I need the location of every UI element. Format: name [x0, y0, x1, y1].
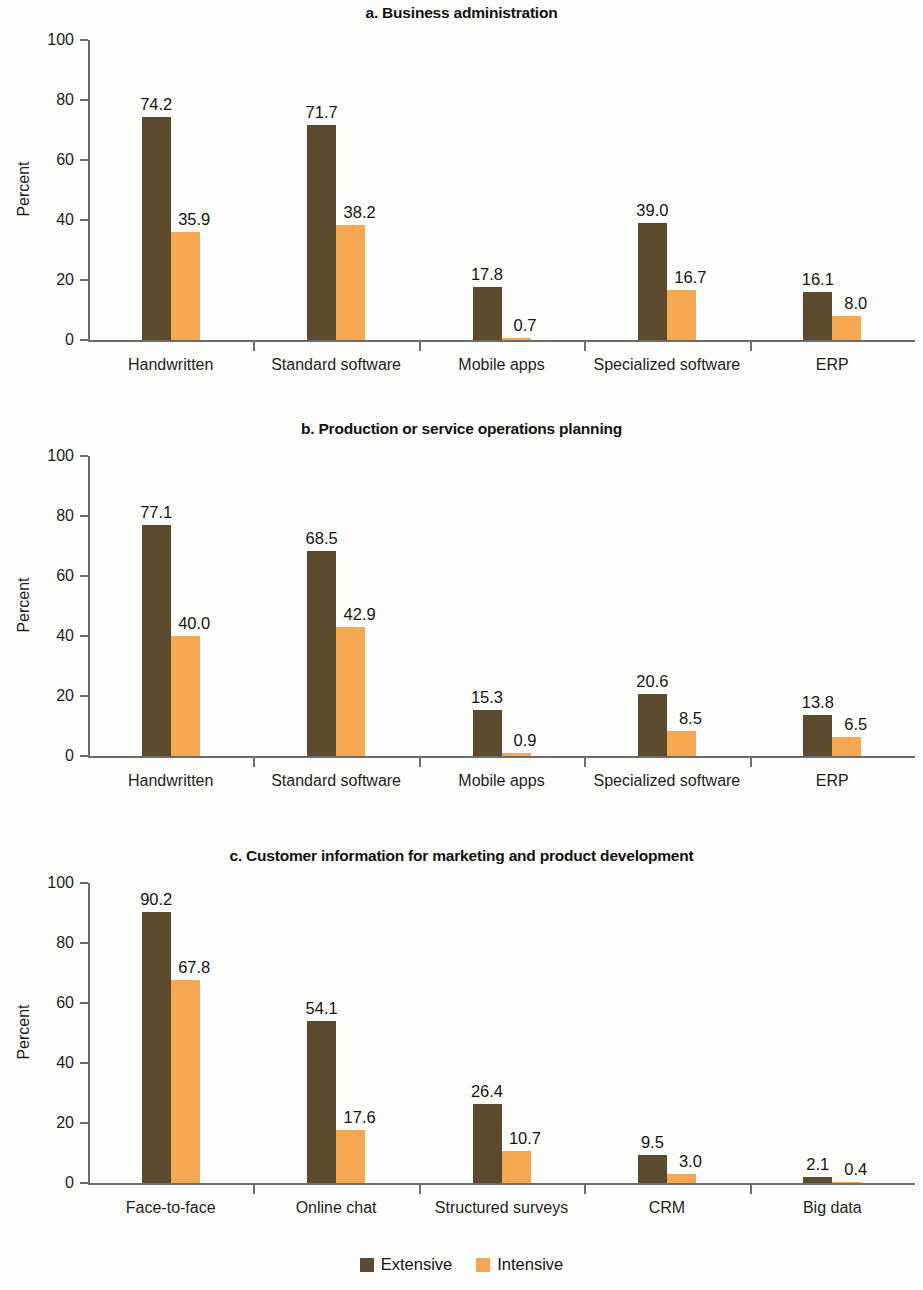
y-axis-tick-label: 40: [30, 1054, 74, 1072]
bar-value-label: 17.8: [471, 265, 503, 284]
y-axis-tick-label: 60: [30, 151, 74, 169]
panel-c-plot: 020406080100Percent90.267.8Face-to-face5…: [0, 871, 923, 1183]
bar-value-label: 39.0: [636, 201, 668, 220]
bar-extensive: [638, 1155, 667, 1184]
legend-item-extensive: Extensive: [360, 1255, 453, 1274]
y-axis-tick: [80, 1002, 88, 1004]
legend-label-extensive: Extensive: [381, 1255, 453, 1274]
bar-extensive: [307, 551, 336, 757]
bar-extensive: [307, 1021, 336, 1183]
bar-intensive: [336, 627, 365, 756]
y-axis-tick: [80, 159, 88, 161]
y-axis-tick: [80, 942, 88, 944]
y-axis-tick-label: 60: [30, 994, 74, 1012]
y-axis-tick: [80, 635, 88, 637]
y-axis-line: [88, 456, 90, 757]
y-axis-tick: [80, 219, 88, 221]
bar-value-label: 38.2: [344, 203, 376, 222]
bar-extensive: [473, 287, 502, 340]
y-axis-tick-label: 80: [30, 507, 74, 525]
bar-value-label: 6.5: [844, 715, 867, 734]
bar-extensive: [803, 1177, 832, 1183]
y-axis-tick-label: 100: [30, 31, 74, 49]
y-axis-tick-label: 0: [30, 331, 74, 349]
bar-value-label: 2.1: [806, 1155, 829, 1174]
legend-label-intensive: Intensive: [497, 1255, 563, 1274]
x-axis-group-tick: [419, 1185, 421, 1194]
y-axis-tick: [80, 455, 88, 457]
bar-value-label: 0.7: [514, 316, 537, 335]
y-axis-tick: [80, 755, 88, 757]
x-axis-category-label: Mobile apps: [458, 772, 544, 790]
x-axis-category-label: Handwritten: [128, 356, 213, 374]
bar-intensive: [667, 731, 696, 757]
x-axis-group-tick: [584, 758, 586, 767]
y-axis-tick-label: 80: [30, 934, 74, 952]
bar-value-label: 9.5: [641, 1133, 664, 1152]
bar-extensive: [638, 694, 667, 756]
bar-intensive: [171, 636, 200, 756]
x-axis-group-tick: [750, 342, 752, 351]
x-axis-category-label: Specialized software: [594, 772, 741, 790]
panel-b-plot: 020406080100Percent77.140.0Handwritten68…: [0, 444, 923, 756]
bar-value-label: 16.1: [802, 270, 834, 289]
y-axis-tick-label: 100: [30, 874, 74, 892]
y-axis-title: Percent: [15, 565, 33, 645]
y-axis-tick: [80, 39, 88, 41]
x-axis-category-label: ERP: [816, 356, 849, 374]
x-axis-category-label: Face-to-face: [126, 1199, 216, 1217]
bar-extensive: [638, 223, 667, 340]
bar-value-label: 71.7: [306, 103, 338, 122]
y-axis-tick: [80, 695, 88, 697]
bar-value-label: 35.9: [178, 210, 210, 229]
x-axis-group-tick: [253, 758, 255, 767]
bar-intensive: [667, 1174, 696, 1183]
bar-value-label: 16.7: [674, 268, 706, 287]
chart-legend: Extensive Intensive: [0, 1255, 923, 1274]
x-axis-category-label: Mobile apps: [458, 356, 544, 374]
y-axis-tick-label: 0: [30, 1174, 74, 1192]
bar-intensive: [171, 232, 200, 340]
bar-value-label: 42.9: [344, 605, 376, 624]
y-axis-tick-label: 0: [30, 747, 74, 765]
y-axis-tick: [80, 575, 88, 577]
x-axis-group-tick: [253, 1185, 255, 1194]
y-axis-tick: [80, 1062, 88, 1064]
x-axis-category-label: Big data: [803, 1199, 862, 1217]
y-axis-tick-label: 60: [30, 567, 74, 585]
bar-value-label: 67.8: [178, 958, 210, 977]
x-axis-category-label: Handwritten: [128, 772, 213, 790]
bar-extensive: [142, 525, 171, 756]
bar-extensive: [142, 117, 171, 340]
bar-value-label: 26.4: [471, 1082, 503, 1101]
bar-value-label: 8.5: [679, 709, 702, 728]
panel-b-title: b. Production or service operations plan…: [0, 420, 923, 438]
bar-intensive: [336, 225, 365, 340]
y-axis-line: [88, 883, 90, 1184]
x-axis-category-label: ERP: [816, 772, 849, 790]
y-axis-title: Percent: [15, 149, 33, 229]
y-axis-tick: [80, 882, 88, 884]
x-axis-category-label: CRM: [649, 1199, 685, 1217]
bar-intensive: [171, 980, 200, 1183]
y-axis-tick: [80, 1182, 88, 1184]
bar-intensive: [502, 1151, 531, 1183]
bar-extensive: [307, 125, 336, 340]
y-axis-tick: [80, 515, 88, 517]
bar-intensive: [832, 737, 861, 757]
x-axis-group-tick: [253, 342, 255, 351]
bar-value-label: 20.6: [636, 672, 668, 691]
bar-extensive: [803, 292, 832, 340]
x-axis-line: [88, 1183, 915, 1185]
bar-value-label: 40.0: [178, 614, 210, 633]
y-axis-tick-label: 40: [30, 627, 74, 645]
y-axis-tick-label: 20: [30, 271, 74, 289]
bar-value-label: 77.1: [140, 503, 172, 522]
x-axis-group-tick: [419, 758, 421, 767]
bar-value-label: 0.9: [514, 731, 537, 750]
x-axis-category-label: Online chat: [296, 1199, 377, 1217]
bar-value-label: 3.0: [679, 1152, 702, 1171]
y-axis-tick-label: 20: [30, 1114, 74, 1132]
x-axis-group-tick: [750, 1185, 752, 1194]
y-axis-tick: [80, 279, 88, 281]
